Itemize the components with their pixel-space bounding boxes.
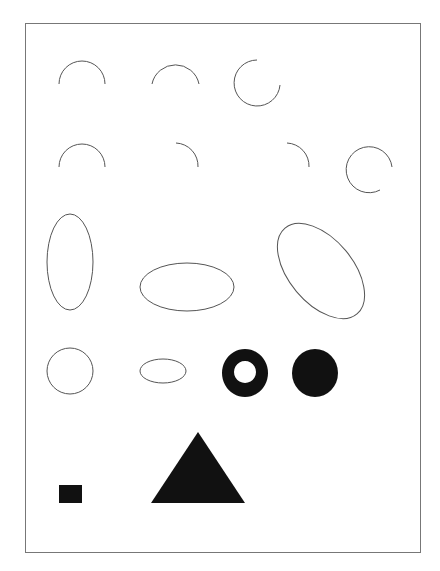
ellipse-tilted (260, 208, 381, 335)
rect-filled (59, 485, 82, 503)
arc-semicircle-1 (59, 61, 105, 84)
arc-three-quarter (234, 60, 280, 106)
ellipse-horizontal (140, 263, 234, 311)
triangle-filled (151, 432, 245, 503)
arc-open-circle (346, 147, 392, 193)
arc-quarter-1 (176, 143, 198, 167)
circle-filled (292, 349, 338, 397)
arc-semicircle-3 (59, 144, 105, 167)
arc-semicircle-2 (152, 65, 199, 84)
ellipse-small (140, 359, 186, 383)
circle-outline (47, 348, 93, 394)
ring-filled (222, 349, 268, 397)
diagram-canvas (0, 0, 440, 571)
ellipse-vertical (47, 214, 93, 310)
arc-quarter-2 (287, 143, 309, 167)
